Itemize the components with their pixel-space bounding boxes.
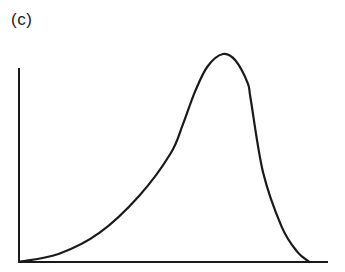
chart-plot <box>0 0 345 272</box>
data-curve <box>19 54 310 262</box>
